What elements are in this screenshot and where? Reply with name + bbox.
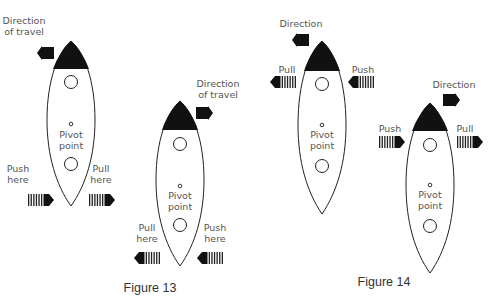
lower-porthole: [316, 160, 329, 173]
upper-porthole: [316, 78, 329, 91]
pivot-label-2: point: [418, 200, 443, 211]
direction-label-1: Direction: [3, 15, 46, 26]
fig13-rocket-b: Pivot point Direction of travel Pull her…: [134, 78, 239, 266]
left-force-label: Push: [379, 123, 402, 134]
direction-label-2: of travel: [4, 26, 44, 37]
left-force-label: Pull: [279, 64, 296, 75]
direction-arrow-left-icon: [37, 46, 54, 60]
rocket-nose: [162, 101, 198, 130]
left-force-label-2: here: [7, 174, 29, 185]
lower-porthole: [424, 220, 437, 233]
pull-arrow-left-icon: [270, 76, 296, 88]
pull-arrow-right-icon: [457, 136, 483, 148]
rocket-nose: [53, 41, 89, 69]
fig14-rocket-a: Pivot point Direction Pull Push: [270, 18, 374, 214]
pivot-label-1: Pivot: [310, 129, 334, 140]
pivot-label-1: Pivot: [168, 190, 192, 201]
pivot-point-dot: [69, 122, 73, 126]
direction-label-2: of travel: [198, 89, 238, 100]
right-force-label-1: Push: [204, 222, 227, 233]
upper-porthole: [424, 139, 437, 152]
right-force-label-2: here: [204, 233, 226, 244]
direction-label-1: Direction: [197, 78, 240, 89]
pivot-point-dot: [428, 183, 432, 187]
fig13-rocket-a: Pivot point Direction of travel Push her…: [3, 15, 115, 206]
right-force-label-1: Pull: [93, 163, 110, 174]
direction-label: Direction: [280, 18, 323, 29]
upper-porthole: [174, 138, 187, 151]
pull-arrow-right-icon: [89, 194, 115, 206]
pivot-label-2: point: [310, 140, 335, 151]
right-force-label: Pull: [457, 123, 474, 134]
pivot-label-1: Pivot: [418, 189, 442, 200]
left-force-label-1: Push: [7, 163, 30, 174]
direction-arrow-right-icon: [443, 93, 460, 107]
pivot-point-dot: [178, 184, 182, 188]
direction-label: Direction: [433, 79, 476, 90]
lower-porthole: [174, 219, 187, 232]
pull-arrow-left-icon: [134, 252, 160, 264]
upper-porthole: [65, 76, 78, 89]
pivot-label-1: Pivot: [59, 129, 83, 140]
pivot-point-dot: [320, 123, 324, 127]
left-force-label-1: Pull: [139, 222, 156, 233]
rocket-nose: [412, 103, 448, 131]
pivot-label-2: point: [168, 201, 193, 212]
push-arrow-left-icon: [348, 76, 374, 88]
push-arrow-right-icon: [28, 194, 54, 206]
pivot-label-2: point: [59, 140, 84, 151]
direction-arrow-left-icon: [292, 33, 309, 47]
right-force-label-2: here: [90, 174, 112, 185]
figure-14-caption: Figure 14: [358, 275, 411, 289]
lower-porthole: [65, 158, 78, 171]
fig14-rocket-b: Pivot point Direction Push Pull: [379, 79, 483, 273]
figure-13-caption: Figure 13: [124, 281, 177, 295]
left-force-label-2: here: [136, 233, 158, 244]
direction-arrow-right-icon: [196, 106, 213, 120]
rocket-nose: [304, 41, 340, 71]
rocket-pivot-diagram: Pivot point Direction of travel Push her…: [0, 0, 504, 301]
right-force-label: Push: [352, 64, 375, 75]
push-arrow-left-icon: [197, 252, 223, 264]
push-arrow-right-icon: [379, 136, 405, 148]
